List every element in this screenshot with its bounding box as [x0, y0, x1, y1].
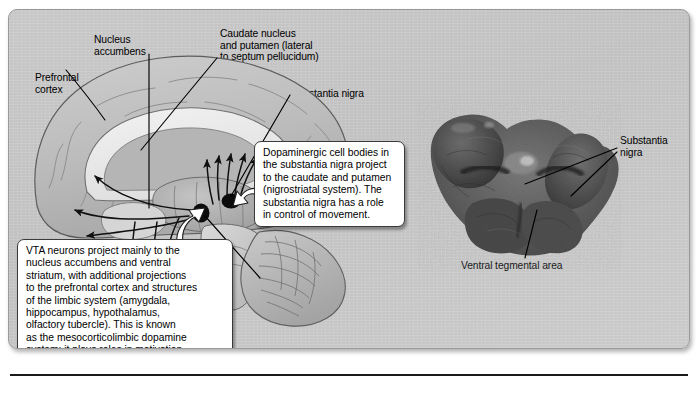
- basal-forebrain: [101, 203, 165, 240]
- label-caudate-putamen: Caudate nucleus and putamen (lateral to …: [220, 28, 319, 63]
- brainstem-photograph: [417, 95, 622, 275]
- substantia-nigra-dot: [222, 194, 241, 209]
- leader-caudate-putamen: [141, 58, 217, 150]
- callout-mesocorticolimbic: VTA neurons project mainly to the nucleu…: [17, 239, 233, 349]
- callout-pointer-arrows: [177, 188, 261, 244]
- label-substantia-nigra-diagram: Substantia nigra: [291, 88, 364, 100]
- label-ventral-tegmental-area-diagram: Ventral tegmental area (VTA): [260, 278, 309, 313]
- bottom-divider: [10, 374, 688, 376]
- label-substantia-nigra-photo: Substantia nigra: [620, 135, 668, 158]
- ventral-tegmental-area-dot: [193, 204, 210, 223]
- callout-nigrostriatal: Dopaminergic cell bodies in the substant…: [254, 141, 405, 227]
- figure-panel: Prefrontal cortex Nucleus accumbens Caud…: [8, 9, 690, 349]
- label-nucleus-accumbens: Nucleus accumbens: [94, 34, 146, 57]
- label-prefrontal-cortex: Prefrontal cortex: [35, 72, 79, 95]
- thalamus: [153, 177, 264, 232]
